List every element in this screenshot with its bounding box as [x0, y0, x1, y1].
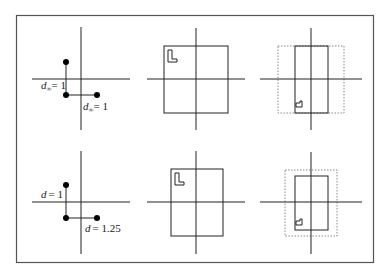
- panel-bottom-right-rect: [260, 152, 362, 254]
- panel-top-left-distance: d∞= 1 d∞= 1: [32, 27, 130, 130]
- outer-frame: [17, 16, 374, 263]
- label-d-horizontal: d= 1.25: [85, 222, 121, 234]
- L-shape-icon: [175, 173, 184, 185]
- point-top: [63, 59, 69, 65]
- diagram-canvas: d∞= 1 d∞= 1 d= 1 d= 1.25: [0, 0, 383, 273]
- point-corner: [63, 92, 69, 98]
- point-right: [94, 215, 100, 221]
- panel-bottom-middle-rect: [147, 151, 245, 254]
- rotated-L-shape-icon: [296, 101, 302, 107]
- panel-top-middle-square: [147, 28, 245, 130]
- panel-bottom-left-distance: d= 1 d= 1.25: [32, 151, 130, 254]
- point-top: [63, 182, 69, 188]
- label-d-vertical: d= 1: [41, 188, 63, 200]
- label-d-inf-vertical: d∞= 1: [41, 79, 66, 93]
- L-shape-icon: [168, 50, 177, 62]
- panel-top-right-rect: [260, 28, 362, 130]
- label-d-inf-horizontal: d∞= 1: [83, 100, 108, 114]
- point-corner: [63, 215, 69, 221]
- point-right: [94, 92, 100, 98]
- rotated-L-shape-icon: [296, 219, 302, 225]
